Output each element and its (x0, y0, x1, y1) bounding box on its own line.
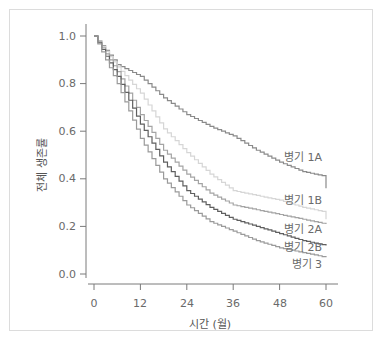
x-tick-label: 12 (133, 297, 147, 310)
y-tick-label: 0.2 (59, 220, 77, 233)
x-ticks (94, 284, 326, 290)
y-tick-label: 0.4 (59, 172, 77, 185)
curve-병기-1A (94, 36, 326, 188)
x-tick-label: 24 (180, 297, 194, 310)
x-tick-label: 0 (91, 297, 98, 310)
y-ticks (80, 36, 86, 274)
series-label-stage-1a: 병기 1A (284, 151, 322, 164)
series-label-stage-1b: 병기 1B (284, 194, 322, 207)
series-label-stage-3: 병기 3 (292, 258, 323, 271)
y-axis-title: 전체 생존률 (36, 138, 49, 192)
curve-병기-2B (94, 36, 326, 245)
y-tick-label: 0.8 (59, 77, 77, 90)
x-tick-label: 48 (273, 297, 287, 310)
y-tick-label: 1.0 (59, 30, 77, 43)
x-tick-label: 60 (319, 297, 333, 310)
series-label-stage-2a: 병기 2A (284, 223, 322, 236)
y-tick-label: 0.0 (59, 268, 77, 281)
x-axis-title: 시간 (월) (189, 318, 231, 331)
survival-chart: 0.0 0.2 0.4 0.6 0.8 1.0 0 12 24 36 48 60… (0, 0, 385, 353)
y-tick-label: 0.6 (59, 125, 77, 138)
x-tick-label: 36 (226, 297, 240, 310)
series-label-stage-2b: 병기 2B (284, 241, 322, 254)
